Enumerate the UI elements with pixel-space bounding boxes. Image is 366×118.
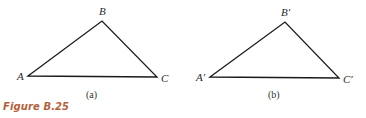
- panel-a-sublabel: (a): [86, 89, 97, 101]
- vertex-label-b-prime: B′: [281, 6, 291, 18]
- vertex-label-a: A: [16, 70, 24, 82]
- vertex-label-c: C: [161, 72, 169, 84]
- vertex-label-a-prime: A′: [195, 71, 206, 83]
- panel-a: A B C (a): [16, 5, 169, 101]
- vertex-label-c-prime: C′: [343, 73, 353, 85]
- panel-b: A′ B′ C′ (b): [195, 6, 353, 101]
- triangle-abc: [28, 21, 157, 77]
- vertex-label-b: B: [99, 5, 106, 17]
- triangle-a-prime-b-prime-c-prime: [210, 22, 339, 78]
- panel-b-sublabel: (b): [268, 89, 280, 101]
- figure-caption: Figure B.25: [3, 101, 69, 112]
